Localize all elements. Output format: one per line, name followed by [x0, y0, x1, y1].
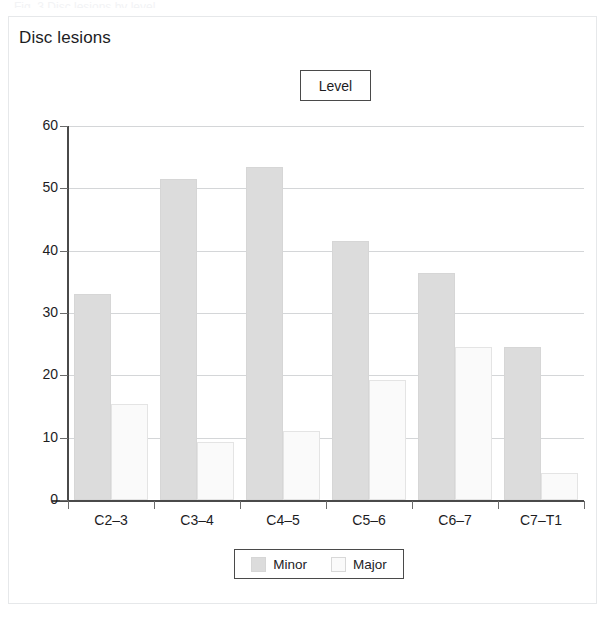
legend-item-minor[interactable]: Minor [251, 557, 307, 572]
x-tick-mark [326, 501, 327, 509]
y-tick-label: 40 [6, 242, 58, 258]
bar-minor-C7-T1[interactable] [504, 347, 541, 500]
y-tick-mark [60, 375, 68, 376]
x-axis-line [52, 500, 584, 502]
x-tick-mark [498, 501, 499, 509]
x-tick-mark [68, 501, 69, 509]
x-tick-label: C6–7 [412, 512, 498, 528]
y-tick-label: 20 [6, 366, 58, 382]
y-tick-label: 50 [6, 179, 58, 195]
x-tick-label: C5–6 [326, 512, 412, 528]
y-tick-label: 10 [6, 429, 58, 445]
x-tick-mark [154, 501, 155, 509]
x-tick-label: C7–T1 [498, 512, 584, 528]
legend-swatch-minor-icon [251, 557, 266, 572]
plot-area [68, 126, 584, 500]
bar-minor-C5-6[interactable] [332, 241, 369, 500]
legend-label-major: Major [353, 557, 387, 572]
x-tick-label: C4–5 [240, 512, 326, 528]
y-tick-mark [60, 313, 68, 314]
bar-minor-C4-5[interactable] [246, 167, 283, 500]
y-axis-labels: 0102030405060 [0, 0, 58, 620]
chart-legend: Minor Major [234, 549, 404, 579]
bar-major-C7-T1[interactable] [541, 473, 578, 500]
x-tick-mark [412, 501, 413, 509]
y-tick-mark [60, 500, 68, 501]
bar-minor-C6-7[interactable] [418, 273, 455, 500]
y-tick-mark [60, 188, 68, 189]
clipped-caption-sliver: Fig. 3 Disc lesions by level [0, 0, 605, 8]
bar-minor-C3-4[interactable] [160, 179, 197, 500]
legend-item-major[interactable]: Major [331, 557, 387, 572]
x-tick-mark [584, 501, 585, 509]
bar-major-C5-6[interactable] [369, 380, 406, 500]
y-tick-label: 0 [6, 491, 58, 507]
y-tick-mark [60, 438, 68, 439]
bar-major-C6-7[interactable] [455, 347, 492, 500]
x-tick-mark [240, 501, 241, 509]
bar-minor-C2-3[interactable] [74, 294, 111, 500]
legend-label-minor: Minor [273, 557, 307, 572]
legend-title-box: Level [300, 70, 371, 101]
y-tick-mark [60, 126, 68, 127]
x-tick-label: C2–3 [68, 512, 154, 528]
legend-swatch-major-icon [331, 557, 346, 572]
bar-major-C4-5[interactable] [283, 431, 320, 500]
y-tick-label: 60 [6, 117, 58, 133]
y-tick-label: 30 [6, 304, 58, 320]
bar-major-C2-3[interactable] [111, 404, 148, 500]
x-tick-label: C3–4 [154, 512, 240, 528]
legend-title-label: Level [319, 78, 352, 94]
bar-major-C3-4[interactable] [197, 442, 234, 500]
y-tick-mark [60, 251, 68, 252]
